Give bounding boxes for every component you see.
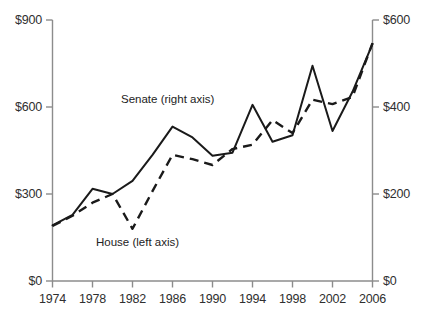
series-line-house	[53, 43, 373, 229]
left-axis-tick-label-0: $0	[0, 274, 42, 288]
left-axis-tick-label-600: $600	[0, 100, 42, 114]
chart-container: $900 $600 $300 $0 $600 $400 $200 $0 1974…	[0, 0, 425, 317]
x-axis-ticks	[53, 281, 373, 288]
series-annotation-senate: Senate (right axis)	[121, 93, 214, 105]
right-axis-tick-label-400: $400	[383, 100, 410, 114]
left-axis-tick-label-900: $900	[0, 13, 42, 27]
series-line-senate	[53, 44, 373, 225]
series-annotation-house: House (left axis)	[96, 236, 179, 248]
right-axis-tick-label-0: $0	[383, 274, 397, 288]
x-axis-tick-label-2006: 2006	[342, 292, 403, 306]
left-axis-tick-label-300: $300	[0, 187, 42, 201]
chart-plot-area	[0, 0, 425, 317]
right-axis-tick-label-200: $200	[383, 187, 410, 201]
right-axis-tick-label-600: $600	[383, 13, 410, 27]
